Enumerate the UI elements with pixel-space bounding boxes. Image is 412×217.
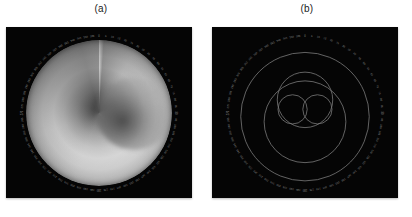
polar-tick-label: 15 <box>117 37 120 40</box>
polar-tick-label: 310 <box>38 61 43 66</box>
polar-tick-label: 105 <box>377 130 381 135</box>
polar-tick-label: 300 <box>237 72 241 77</box>
polar-tick-label: 65 <box>372 79 376 83</box>
polar-tick-label: 340 <box>277 39 282 43</box>
polar-tick-label: 295 <box>234 78 238 83</box>
polar-tick-label: 85 <box>173 104 176 107</box>
polar-tick-label: 60 <box>369 73 373 77</box>
polar-tick-label: 40 <box>146 52 150 56</box>
polar-tick-label: 255 <box>230 130 234 135</box>
polar-tick-label: 45 <box>151 57 155 61</box>
polar-tick-label: 0 <box>304 35 305 38</box>
polar-tick-label: 280 <box>22 97 25 102</box>
polar-tick-label: 305 <box>34 66 39 71</box>
polar-tick-label: 80 <box>172 98 175 101</box>
polar-tick-label: 210 <box>264 176 269 180</box>
polar-tick-label: 320 <box>254 52 259 57</box>
polar-tick-label: 315 <box>249 56 254 61</box>
polar-tick-label: 315 <box>43 56 48 61</box>
panel-b-label: (b) <box>212 3 402 14</box>
polar-tick-label: 5 <box>105 35 107 38</box>
polar-tick-label: 85 <box>379 104 382 107</box>
polar-tick-label: 55 <box>159 67 163 71</box>
polar-tick-label: 25 <box>129 42 133 46</box>
polar-tick-label: 295 <box>28 78 32 83</box>
polar-tick-label: 215 <box>53 172 58 177</box>
polar-tick-label: 280 <box>228 97 231 102</box>
polar-tick-label: 240 <box>31 148 35 153</box>
polar-tick-label: 285 <box>24 90 28 95</box>
polar-tick-label: 265 <box>22 117 25 122</box>
polar-tick-label: 70 <box>169 85 172 89</box>
polar-tick-label: 275 <box>22 104 25 109</box>
polar-tick-label: 185 <box>90 187 95 190</box>
polar-tick-label: 120 <box>369 148 373 153</box>
polar-tick-label: 355 <box>296 35 301 38</box>
polar-tick-label: 155 <box>335 179 340 183</box>
polar-tick-label: 290 <box>26 84 30 89</box>
polar-tick-label: 10 <box>317 36 320 39</box>
polar-tick-label: 270 <box>22 110 25 114</box>
polar-tick-label: 245 <box>234 142 238 147</box>
polar-tick-label: 140 <box>145 168 150 173</box>
polar-tick-label: 20 <box>123 39 127 42</box>
polar-tick-label: 145 <box>346 172 351 177</box>
polar-tick-label: 325 <box>53 48 58 53</box>
polar-tick-label: 235 <box>240 154 245 159</box>
polar-tick-label: 195 <box>77 184 82 188</box>
polar-tick-label: 265 <box>228 117 231 122</box>
polar-tick-label: 245 <box>28 142 32 147</box>
polar-tick-label: 355 <box>90 35 95 38</box>
polar-tick-label: 195 <box>283 184 288 188</box>
polar-tick-label: 285 <box>230 90 234 95</box>
polar-tick-label: 180 <box>303 187 307 190</box>
polar-tick-label: 300 <box>31 72 35 77</box>
polar-tick-label: 215 <box>259 172 264 177</box>
polar-tick-label: 230 <box>244 159 249 164</box>
polar-tick-label: 345 <box>283 37 288 41</box>
polar-tick-label: 45 <box>357 57 361 61</box>
polar-tick-label: 180 <box>97 187 101 190</box>
polar-tick-label: 190 <box>289 186 294 189</box>
polar-tick-label: 250 <box>26 136 30 141</box>
polar-tick-label: 320 <box>48 52 53 57</box>
polar-tick-label: 155 <box>129 179 134 183</box>
polar-tick-label: 35 <box>347 48 351 52</box>
polar-tick-label: 140 <box>351 168 356 173</box>
polar-tick-label: 190 <box>83 186 88 189</box>
polar-tick-label: 210 <box>58 176 63 180</box>
polar-tick-label: 335 <box>64 42 69 46</box>
polar-tick-label: 75 <box>377 91 380 94</box>
polar-tick-label: 25 <box>335 42 339 46</box>
panel-a: (a) 051015202530354045505560657075808590… <box>6 0 196 217</box>
polar-tick-label: 220 <box>254 168 259 173</box>
polar-tick-label: 130 <box>361 159 366 164</box>
polar-tick-label: 325 <box>259 48 264 53</box>
polar-tick-label: 90 <box>380 111 383 114</box>
polar-tick-label: 170 <box>316 186 321 189</box>
polar-tick-label: 125 <box>365 154 370 159</box>
polar-tick-label: 15 <box>323 37 326 40</box>
polar-tick-label: 235 <box>34 154 39 159</box>
polar-tick-label: 130 <box>155 159 160 164</box>
polar-tick-label: 150 <box>340 176 345 180</box>
polar-tick-label: 115 <box>372 142 376 147</box>
polar-tick-label: 225 <box>43 164 48 169</box>
panel-b: (b) 051015202530354045505560657075808590… <box>212 0 402 217</box>
polar-tick-label: 55 <box>365 67 369 71</box>
polar-tick-label: 90 <box>174 111 177 114</box>
polar-tick-label: 75 <box>171 91 174 94</box>
polar-tick-label: 230 <box>38 159 43 164</box>
panel-a-plot-area: 0510152025303540455055606570758085909510… <box>6 27 192 198</box>
polar-tick-label: 40 <box>352 52 356 56</box>
figure-root: (a) 051015202530354045505560657075808590… <box>0 0 412 217</box>
polar-tick-label: 50 <box>155 62 159 66</box>
polar-tick-label: 205 <box>270 179 275 183</box>
polar-tick-ring-b: 0510152025303540455055606570758085909510… <box>221 29 389 197</box>
polar-tick-label: 145 <box>140 172 145 177</box>
polar-tick-label: 135 <box>150 164 155 169</box>
polar-tick-label: 95 <box>379 118 382 121</box>
polar-tick-ring-a: 0510152025303540455055606570758085909510… <box>15 29 183 197</box>
polar-tick-label: 100 <box>378 123 381 128</box>
panel-a-label: (a) <box>6 3 196 14</box>
